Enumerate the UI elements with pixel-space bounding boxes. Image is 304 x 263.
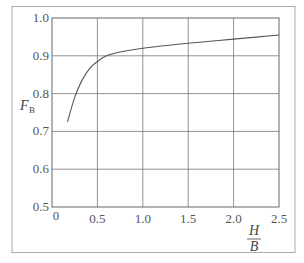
chart: 00.51.01.52.02.5 0.50.60.70.80.91.0 F B … [0,0,304,263]
y-tick-label: 0.9 [33,48,49,63]
y-tick-labels: 0.50.60.70.80.91.0 [33,10,50,214]
y-label-main: F [19,98,29,113]
x-tick-label: 1.5 [180,211,196,226]
x-tick-label: 2.0 [225,211,241,226]
y-label-sub: B [29,105,35,115]
y-tick-label: 0.5 [33,199,49,214]
grid [52,18,279,207]
y-tick-label: 1.0 [33,10,49,25]
y-tick-label: 0.6 [33,161,50,176]
x-axis-label: H B [247,223,261,254]
x-tick-label: 1.0 [135,211,151,226]
data-line [67,35,279,122]
x-tick-label: 0.5 [89,211,105,226]
plot-area [52,18,279,207]
x-tick-label: 0 [53,208,60,223]
x-label-numerator: H [248,223,260,238]
x-label-denominator: B [250,239,259,254]
y-tick-label: 0.7 [33,123,50,138]
y-tick-label: 0.8 [33,86,49,101]
x-tick-label: 2.5 [271,211,287,226]
